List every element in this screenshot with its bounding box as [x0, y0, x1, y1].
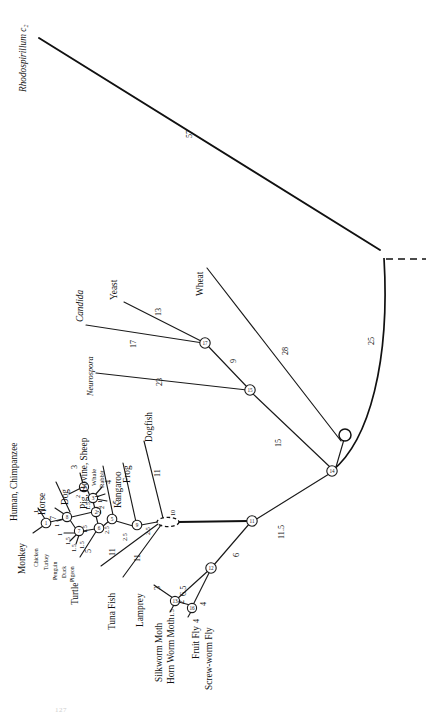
branch-length-duck-15: 1.5: [70, 544, 77, 552]
branch-length-candida-17: 17: [129, 340, 138, 348]
branch-length-fruitfly-2: 2: [177, 600, 186, 604]
node-15-number: 15: [247, 387, 253, 393]
node-17-number: 17: [202, 340, 208, 346]
taxon-label-chicken: Chicken: [33, 548, 39, 567]
branch-monkey-1: [33, 526, 43, 533]
branch-length-animal-stem-115: 11.5: [277, 525, 286, 539]
taxon-label-horn-worm-moth: Horn Worm Moth: [166, 617, 176, 684]
branch-length-neurospora-23: 23: [155, 378, 164, 386]
branch-length-frog-5: 5: [112, 500, 121, 504]
branch-chicken-1: [55, 508, 64, 514]
branch-length-vertebrate-stem-10: 10: [169, 510, 176, 516]
branch-length-mammal-2-15: 1.5: [84, 502, 91, 510]
node-6-number: 6: [98, 525, 101, 531]
branch-length-tuna-11: 11: [108, 548, 117, 556]
taxon-label-dogfish: Dogfish: [144, 412, 154, 442]
branch-length-tetrapod-25b: 2.5: [121, 533, 128, 541]
branch-length-dogfish-11: 11: [153, 469, 162, 477]
node-9-number: 9: [136, 522, 139, 528]
phylogenetic-tree-figure: 14 15 17 11 12 13 16 9 5 6 2 3 4 7 8 1: [0, 0, 426, 724]
branch-length-rabbit-2: 2: [98, 506, 105, 509]
branch-yeast-13: [124, 302, 203, 342]
branch-length-labels: 57 25 28 15 23 17 13 9 11.5 6 6.5 4 3 1.…: [32, 130, 376, 623]
branch-length-root-25: 25: [367, 337, 376, 345]
taxon-label-penguin: Penguin: [52, 561, 58, 580]
page-number: 127: [55, 706, 67, 714]
taxon-label-human-chimpanzee: Human, Chimpanzee: [9, 443, 19, 521]
taxon-label-turkey: Turkey: [43, 554, 49, 570]
branch-length-tetrapod-25a: 2.5: [144, 527, 151, 535]
branch-wheat-28: [207, 268, 341, 441]
node-1-number: 1: [45, 520, 48, 526]
taxon-label-pigeon: Pigeon: [69, 566, 75, 582]
branch-length-insect-stem-6: 6: [232, 553, 241, 557]
node-14-number: 14: [329, 468, 335, 474]
taxon-label-turtle: Turtle: [70, 583, 80, 605]
branch-length-turtle-5: 5: [84, 549, 93, 553]
branch-length-flies-4: 4: [199, 602, 208, 606]
branch-tetrapod-25b: [116, 521, 133, 526]
branch-insect-stem-6: [213, 523, 250, 566]
taxon-label-duck: Duck: [61, 566, 67, 578]
branch-length-fungi-join-9: 9: [229, 359, 238, 363]
branch-length-horse-7: 7: [49, 516, 58, 520]
branch-length-fungi-stem-15: 15: [274, 439, 283, 447]
node-eukaryote-root: [339, 429, 351, 441]
node-11-number: 11: [250, 518, 255, 524]
taxon-label-rabbit: Rabbit: [98, 470, 105, 488]
branch-lamprey-11: [123, 525, 161, 577]
taxon-label-candida: Candida: [75, 290, 85, 322]
branch-length-bird-stem-25: 2.5: [103, 526, 110, 534]
taxon-label-monkey: Monkey: [17, 543, 27, 574]
node-8-number: 8: [66, 514, 69, 520]
branch-length-turkey-1: 1: [56, 533, 63, 536]
branch-tetrapod-25a: [141, 522, 157, 525]
taxon-label-screw-worm-fly: Screw-worm Fly: [204, 627, 214, 690]
branch-animal-stem-115: [255, 474, 329, 520]
branch-length-wheat-28: 28: [281, 347, 290, 355]
branch-length-yeast-13: 13: [154, 308, 163, 316]
branch-length-bird-join-15: 1.5: [81, 525, 88, 533]
branch-vertebrate-trunk-10: [178, 521, 248, 522]
branch-length-penguin-15: 1.5: [64, 537, 71, 545]
branch-length-whale-1: 1: [96, 500, 103, 503]
branch-length-pigbovinesheep-1: 1: [93, 495, 100, 498]
branch-length-screwworm-4: 4: [192, 619, 201, 623]
branch-length-lamprey-11: 11: [133, 554, 142, 562]
branch-candida-17: [86, 325, 203, 343]
taxon-label-dog: Dog: [60, 489, 70, 505]
taxon-label-wheat: Wheat: [195, 271, 205, 296]
branch-length-pigeon-15: 1.5: [78, 541, 85, 549]
branch-length-hornworm-15: 1.5: [168, 609, 175, 617]
branch-length-chicken-1: 1: [53, 524, 60, 527]
branch-fungi-stem-15: [251, 392, 330, 467]
branch-length-silkworm-3: 3: [153, 586, 162, 590]
branch-rhodospirillum: [39, 38, 380, 250]
taxon-label-lamprey: Lamprey: [135, 593, 145, 627]
taxon-label-frog: Frog: [122, 465, 132, 483]
branch-length-human-1: 1: [40, 509, 47, 512]
branch-neurospora-23: [96, 373, 247, 390]
taxon-label-tuna-fish: Tuna Fish: [107, 593, 117, 630]
branch-length-dog-3: 3: [70, 465, 79, 469]
taxon-label-fruit-fly: Fruit Fly: [191, 626, 201, 659]
branch-length-kangaroo-4: 4: [104, 480, 113, 484]
branch-fungi-join-9: [207, 345, 248, 388]
tree-svg: 14 15 17 11 12 13 16 9 5 6 2 3 4 7 8 1: [0, 0, 426, 724]
branch-lines: [33, 38, 426, 617]
branch-dogfish-11: [144, 441, 163, 518]
branch-length-monkey-1: 1: [32, 510, 39, 513]
node-16-number: 16: [189, 605, 195, 611]
taxon-label-neurospora: Neurospora: [86, 356, 95, 397]
node-5-number: 5: [111, 516, 114, 522]
branch-length-dognode-2: 2: [74, 495, 81, 498]
taxon-label-rhodospirillum: Rhodospirillum c₂: [18, 24, 28, 93]
branch-mammal-stem-25: [96, 516, 98, 524]
node-12-number: 12: [208, 565, 214, 571]
taxon-label-silkworm-moth: Silkworm Moth: [154, 623, 164, 682]
taxon-label-whale: Whale: [90, 469, 97, 486]
branch-length-rhodospirillum: 57: [185, 130, 194, 138]
taxon-label-yeast: Yeast: [109, 279, 119, 300]
branch-length-moths-65: 6.5: [179, 586, 188, 596]
